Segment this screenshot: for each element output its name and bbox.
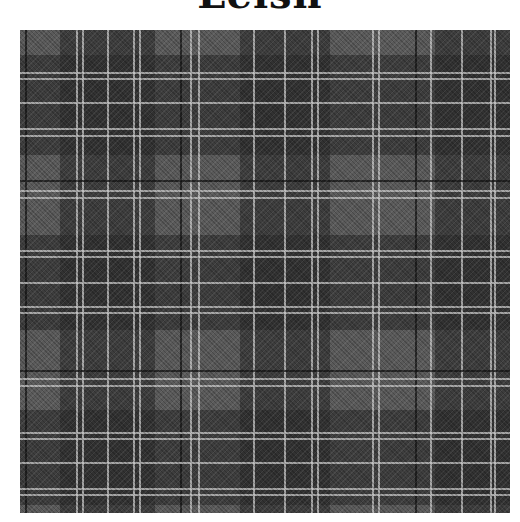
weave-texture (20, 30, 510, 513)
tartan-title: Leish (0, 0, 520, 14)
tartan-swatch (20, 30, 510, 513)
